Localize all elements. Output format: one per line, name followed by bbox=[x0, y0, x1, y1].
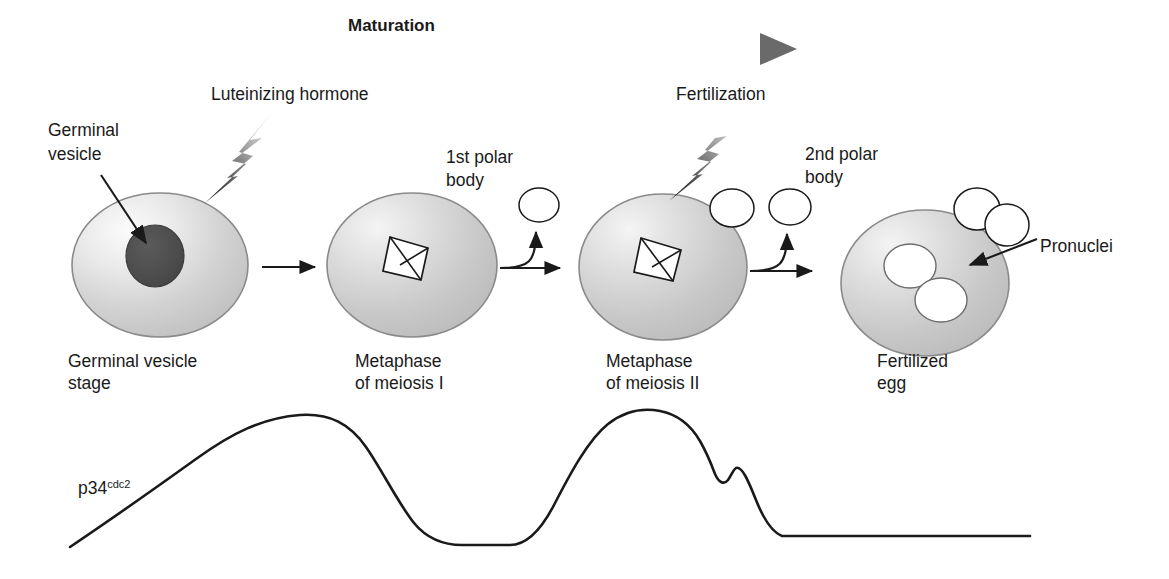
pronuclei-callout-label: Pronuclei bbox=[1040, 236, 1113, 256]
p34cdc2-label-superscript: cdc2 bbox=[107, 478, 130, 490]
second-polar-body-label-line1: 2nd polar bbox=[805, 144, 878, 164]
polar-body-extrusion-arrow-2 bbox=[750, 234, 787, 271]
attached-first-polar-body bbox=[710, 189, 754, 227]
fertilization-bolt-icon bbox=[669, 108, 740, 201]
stage-2-caption-line2: of meiosis I bbox=[355, 373, 444, 393]
stage-germinal-vesicle-stage bbox=[72, 175, 248, 337]
luteinizing-hormone-label: Luteinizing hormone bbox=[211, 84, 369, 104]
stage-fertilized-egg bbox=[841, 188, 1037, 356]
stage-1-caption-line2: stage bbox=[68, 373, 111, 393]
figure-canvas: Maturation Luteinizing hormone Fertiliza… bbox=[0, 0, 1169, 579]
germinal-vesicle-callout-line2: vesicle bbox=[48, 144, 102, 164]
stage-1-caption-line1: Germinal vesicle bbox=[68, 351, 197, 371]
first-polar-body bbox=[519, 188, 559, 222]
p34cdc2-label-base: p34 bbox=[78, 478, 107, 498]
p34cdc2-curve-label: p34cdc2 bbox=[78, 478, 130, 498]
polar-body-extrusion-arrow-1 bbox=[500, 232, 536, 268]
maturation-arrow bbox=[62, 33, 797, 65]
maturation-arrow-head bbox=[760, 33, 797, 65]
stage-3-caption-line2: of meiosis II bbox=[606, 373, 699, 393]
polar-body-branch-2 bbox=[750, 189, 812, 271]
oocyte-maturation-diagram: Maturation Luteinizing hormone Fertiliza… bbox=[0, 0, 1169, 579]
fertilization-label: Fertilization bbox=[676, 84, 765, 104]
first-polar-body-label-line2: body bbox=[446, 170, 484, 190]
stage-4-caption-line2: egg bbox=[877, 373, 906, 393]
germinal-vesicle-callout-line1: Germinal bbox=[48, 120, 119, 140]
second-polar-body bbox=[769, 189, 811, 225]
stage-2-caption-line1: Metaphase bbox=[355, 351, 442, 371]
lightning-bolt-icon-2 bbox=[669, 108, 740, 201]
figure-title: Maturation bbox=[348, 16, 435, 35]
stage-3-caption-line1: Metaphase bbox=[606, 351, 693, 371]
germinal-vesicle-nucleus bbox=[126, 225, 184, 287]
stage-metaphase-meiosis-i bbox=[327, 193, 497, 337]
attached-polar-body-b bbox=[985, 204, 1029, 246]
second-polar-body-label-line2: body bbox=[805, 167, 843, 187]
luteinizing-hormone-bolt-icon bbox=[205, 110, 274, 203]
pronucleus-2 bbox=[915, 278, 967, 322]
p34cdc2-activity-curve bbox=[70, 410, 1030, 547]
lightning-bolt-icon-1 bbox=[205, 110, 274, 203]
stage-4-caption-line1: Fertilized bbox=[877, 351, 948, 371]
polar-body-branch-1 bbox=[500, 188, 560, 268]
stage-metaphase-meiosis-ii bbox=[579, 189, 754, 340]
first-polar-body-label-line1: 1st polar bbox=[446, 147, 513, 167]
